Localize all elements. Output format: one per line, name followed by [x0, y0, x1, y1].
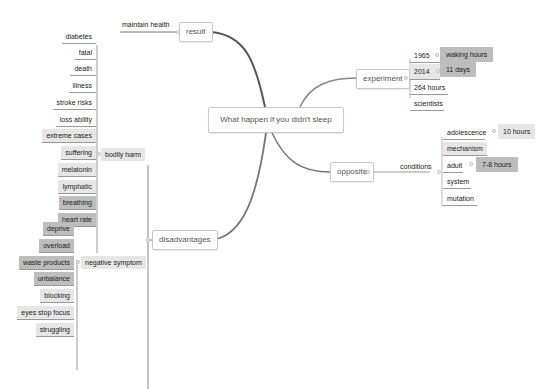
leaf-diabetes[interactable]: diabetes: [62, 30, 96, 44]
branch-disadvantages[interactable]: disadvantages: [152, 230, 218, 250]
leaf-illness[interactable]: illness: [69, 79, 96, 93]
collapse-dot[interactable]: [366, 170, 370, 174]
leaf-mechanism[interactable]: mechanism: [443, 142, 487, 156]
leaf-death[interactable]: death: [70, 62, 96, 76]
leaf-melatonin[interactable]: melatonin: [58, 163, 96, 177]
leaf-adolescence[interactable]: adolescence: [443, 126, 485, 140]
leaf-fatal[interactable]: fatal: [75, 46, 96, 60]
collapse-dot[interactable]: [437, 170, 441, 174]
leaf-system[interactable]: system: [443, 175, 471, 189]
leaf-mutation[interactable]: mutation: [443, 192, 477, 206]
leaf-loss-ability[interactable]: loss ability: [56, 113, 96, 127]
leaf-264-hours[interactable]: 264 hours: [410, 81, 448, 95]
leaf-struggling[interactable]: struggling: [36, 323, 74, 337]
collapse-dot[interactable]: [146, 238, 150, 242]
node-bodily-harm[interactable]: bodily harm: [101, 148, 145, 161]
leaf-blocking[interactable]: blocking: [40, 289, 74, 303]
leaf-adult[interactable]: adult: [443, 159, 463, 173]
leaf-maintain-health[interactable]: maintain health: [122, 21, 169, 28]
branch-experiment[interactable]: experiment: [356, 69, 410, 89]
collapse-dot[interactable]: [492, 129, 496, 133]
leaf-breathing[interactable]: breathing: [59, 196, 96, 210]
leaf-scientists[interactable]: scientists: [410, 97, 444, 111]
collapse-dot[interactable]: [469, 162, 473, 166]
node-negative-symptom[interactable]: negative symptom: [81, 256, 146, 269]
leaf-overload[interactable]: overload: [39, 239, 74, 253]
leaf-deprive[interactable]: deprive: [43, 222, 74, 236]
leaf-waste-products[interactable]: waste products: [19, 256, 74, 270]
leaf-waking-hours[interactable]: waking hours: [440, 47, 493, 62]
leaf-lymphatic[interactable]: lymphatic: [58, 180, 96, 194]
leaf-extreme-cases[interactable]: extreme cases: [42, 129, 96, 143]
leaf-unbalance[interactable]: unbalance: [34, 272, 74, 286]
leaf-10-hours[interactable]: 10 hours: [498, 124, 535, 139]
leaf-11-days[interactable]: 11 days: [440, 62, 476, 77]
leaf-suffering[interactable]: suffering: [61, 146, 96, 160]
leaf-stroke-risks[interactable]: stroke risks: [53, 96, 96, 110]
branch-result[interactable]: result: [179, 22, 213, 42]
collapse-dot[interactable]: [97, 152, 101, 156]
leaf-eyes-stop-focus[interactable]: eyes stop focus: [17, 306, 74, 320]
node-conditions[interactable]: conditions: [400, 163, 432, 170]
leaf-7-8-hours[interactable]: 7-8 hours: [476, 157, 518, 172]
central-topic[interactable]: What happen if you didn't sleep: [208, 107, 344, 133]
collapse-dot[interactable]: [435, 53, 439, 57]
mind-map-canvas: What happen if you didn't sleep result m…: [0, 0, 554, 389]
collapse-dot[interactable]: [76, 260, 80, 264]
collapse-dot[interactable]: [404, 76, 408, 80]
collapse-dot[interactable]: [176, 30, 180, 34]
